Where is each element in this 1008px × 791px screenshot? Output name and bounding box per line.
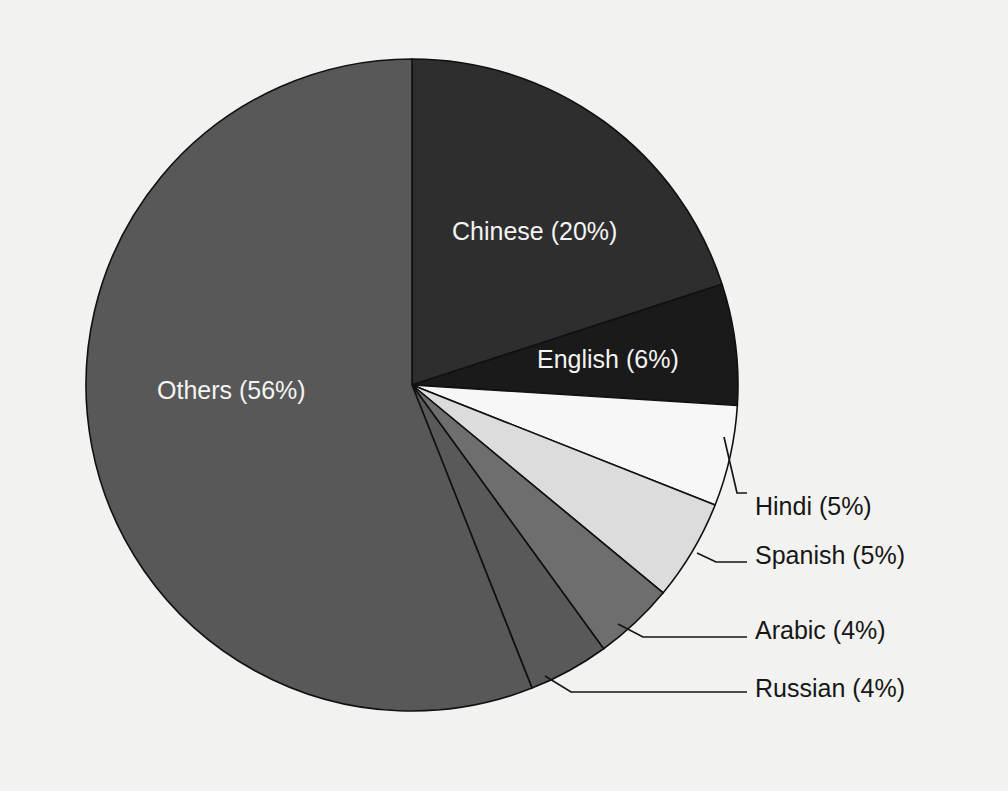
pie-chart-figure: Chinese (20%)English (6%)Hindi (5%)Spani… (0, 0, 1008, 791)
slice-label-hindi: Hindi (5%) (755, 492, 872, 520)
slice-label-arabic: Arabic (4%) (755, 616, 886, 644)
slice-label-russian: Russian (4%) (755, 674, 905, 702)
slice-label-english: English (6%) (537, 345, 679, 373)
slice-label-spanish: Spanish (5%) (755, 541, 905, 569)
pie-chart-canvas: Chinese (20%)English (6%)Hindi (5%)Spani… (0, 0, 1008, 791)
slice-label-others: Others (56%) (157, 376, 306, 404)
slice-label-chinese: Chinese (20%) (452, 217, 617, 245)
